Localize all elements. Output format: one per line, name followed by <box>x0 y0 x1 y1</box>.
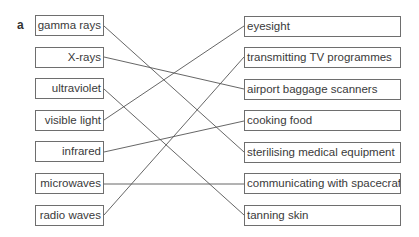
question-label: a <box>17 18 24 32</box>
right-item-eyesight: eyesight <box>244 16 401 37</box>
left-item-x-rays: X-rays <box>35 47 104 68</box>
right-item-tanning-skin: tanning skin <box>244 205 401 226</box>
left-item-microwaves: microwaves <box>35 173 104 194</box>
right-item-cooking-food: cooking food <box>244 110 401 131</box>
left-item-gamma-rays: gamma rays <box>35 15 104 36</box>
left-item-ultraviolet: ultraviolet <box>35 78 104 99</box>
left-item-radio-waves: radio waves <box>35 205 104 226</box>
match-line-xrays-airport <box>104 57 244 89</box>
right-item-communicating: communicating with spacecraft <box>244 173 401 194</box>
left-item-visible-light: visible light <box>35 110 104 131</box>
right-item-sterilising: sterilising medical equipment <box>244 142 401 163</box>
match-line-radio-transmitting <box>104 57 244 215</box>
match-line-ultraviolet-tanning <box>104 89 244 215</box>
match-line-infrared-cooking <box>104 121 244 152</box>
right-item-transmitting-tv: transmitting TV programmes <box>244 47 401 68</box>
left-item-infrared: infrared <box>35 141 104 162</box>
right-item-airport-scanners: airport baggage scanners <box>244 79 401 100</box>
match-line-visible-eyesight <box>104 26 244 120</box>
match-line-gamma-sterilising <box>104 26 244 152</box>
